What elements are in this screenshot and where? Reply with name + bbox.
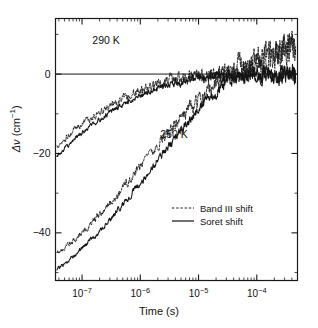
data-series-3 <box>57 66 296 270</box>
y-axis-label-nu: ν <box>10 139 22 145</box>
x-tick-label-2: 10−5 <box>189 286 209 299</box>
legend-label-1: Soret shift <box>200 216 243 227</box>
y-axis-label-exponent: −1 <box>8 109 17 118</box>
y-tick-label-0: 0 <box>45 68 51 80</box>
y-axis-label: Δν (cm−1) <box>8 86 22 172</box>
y-tick-label-2: −40 <box>33 226 51 238</box>
y-tick-label-1: −20 <box>33 147 51 159</box>
x-tick-label-0: 10−7 <box>72 286 92 299</box>
plot-canvas: 10−710−610−510−40−20−40290 K250 KBand II… <box>0 0 318 328</box>
x-axis-label: Time (s) <box>0 305 318 317</box>
y-axis-label-unit-close: ) <box>10 105 22 109</box>
annotation-290-k: 290 K <box>92 34 119 46</box>
annotation-250-k: 250 K <box>160 128 187 140</box>
y-axis-label-unit: (cm <box>10 118 22 136</box>
data-series-2 <box>57 34 296 253</box>
legend-label-0: Band III shift <box>200 203 253 214</box>
figure-panel: 10−710−610−510−40−20−40290 K250 KBand II… <box>0 0 318 328</box>
x-tick-label-3: 10−4 <box>247 286 267 299</box>
x-tick-label-1: 10−6 <box>131 286 151 299</box>
y-axis-label-delta: Δ <box>10 145 22 152</box>
